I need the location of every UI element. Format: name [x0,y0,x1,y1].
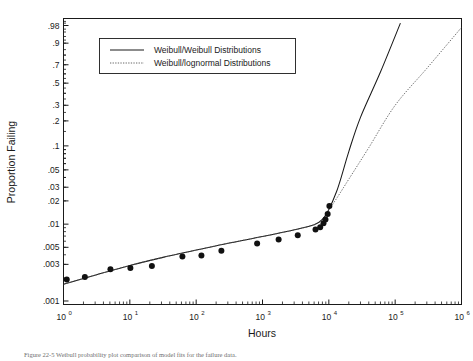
y-tick-label: .03 [48,182,60,192]
weibull-probability-plot: .98.9.7.5.3.2.1.05.03.02.01.005.003.001 … [0,0,473,361]
x-tick-label: 10 [455,312,465,322]
y-tick-label: .9 [52,38,59,48]
y-axis-title: Proportion Failing [5,121,17,203]
y-tick-label: .7 [52,60,59,70]
x-tick-exponent: 4 [334,310,338,316]
data-point [276,237,282,243]
y-tick-label: .003 [43,259,60,269]
x-axis-ticks: 100101102103104105106 [57,300,471,322]
data-point [218,248,224,254]
data-point [295,232,301,238]
y-tick-label: .005 [43,242,60,252]
y-tick-label: .001 [43,296,60,306]
y-tick-label: .98 [48,21,60,31]
data-point [198,253,204,259]
legend[interactable]: Weibull/Weibull Distributions Weibull/lo… [100,39,296,74]
data-point [107,266,113,272]
y-tick-label: .1 [52,141,59,151]
data-point [127,265,133,271]
data-point [254,241,260,247]
x-tick-label: 10 [322,312,332,322]
x-tick-exponent: 5 [400,310,404,316]
x-tick-label: 10 [189,312,199,322]
x-tick-label: 10 [57,312,67,322]
data-points-group [64,203,333,283]
x-axis-title: Hours [248,327,276,339]
data-point [82,274,88,280]
x-tick-label: 10 [256,312,266,322]
x-tick-exponent: 3 [268,310,272,316]
data-point [149,263,155,269]
data-point [322,216,328,222]
x-tick-exponent: 1 [135,310,139,316]
x-tick-label: 10 [123,312,133,322]
data-point [179,253,185,259]
y-tick-label: .01 [48,219,60,229]
y-tick-label: .05 [48,165,60,175]
y-tick-label: .2 [52,116,59,126]
x-tick-exponent: 2 [201,310,205,316]
data-point [325,211,331,217]
legend-box [100,39,296,74]
y-tick-label: .5 [52,78,59,88]
data-point [326,203,332,209]
x-tick-exponent: 6 [467,310,471,316]
figure-container: .98.9.7.5.3.2.1.05.03.02.01.005.003.001 … [0,0,473,361]
x-tick-exponent: 0 [69,310,73,316]
y-tick-label: .3 [52,100,59,110]
data-point [64,277,70,283]
figure-caption: Figure 22-5 Weibull probability plot com… [24,351,237,358]
legend-label-weibull-lognormal: Weibull/lognormal Distributions [154,58,271,68]
legend-label-weibull-weibull: Weibull/Weibull Distributions [154,45,261,55]
x-tick-label: 10 [388,312,398,322]
y-tick-label: .02 [48,196,60,206]
